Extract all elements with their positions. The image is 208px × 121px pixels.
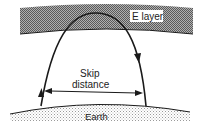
arrow-left-icon bbox=[44, 88, 52, 94]
earth-label: Earth bbox=[85, 111, 108, 121]
skip-distance-diagram: E layer Skip distance Earth bbox=[0, 0, 208, 121]
e-layer-label: E layer bbox=[130, 10, 164, 22]
distance-label: distance bbox=[72, 79, 110, 90]
e-layer-text: E layer bbox=[132, 11, 164, 22]
e-layer-band bbox=[20, 4, 193, 34]
arrow-right-icon bbox=[135, 90, 143, 96]
skip-label: Skip bbox=[80, 68, 100, 79]
arrow-down-icon bbox=[134, 53, 141, 63]
